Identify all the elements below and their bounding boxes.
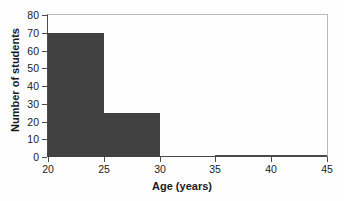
x-tick-label-wrap: 20 bbox=[28, 163, 68, 175]
x-tick-mark bbox=[160, 157, 161, 162]
x-tick-label-wrap: 30 bbox=[140, 163, 180, 175]
bar bbox=[48, 33, 104, 157]
y-tick-label-wrap: 60 bbox=[0, 46, 39, 56]
x-tick-label-wrap: 40 bbox=[251, 163, 291, 175]
y-tick-mark bbox=[42, 157, 47, 158]
bar bbox=[104, 113, 160, 157]
x-tick-mark bbox=[48, 157, 49, 162]
x-tick-label: 45 bbox=[307, 163, 344, 175]
y-tick-label: 40 bbox=[3, 81, 39, 91]
y-tick-label-wrap: 10 bbox=[0, 134, 39, 144]
y-tick-label-wrap: 30 bbox=[0, 99, 39, 109]
y-tick-label-wrap: 0 bbox=[0, 152, 39, 162]
y-tick-label-wrap: 20 bbox=[0, 117, 39, 127]
x-tick-label: 30 bbox=[140, 163, 180, 175]
x-tick-label: 40 bbox=[251, 163, 291, 175]
y-tick-label: 30 bbox=[3, 99, 39, 109]
y-tick-label-wrap: 50 bbox=[0, 63, 39, 73]
x-tick-label-wrap: 35 bbox=[195, 163, 235, 175]
x-tick-mark bbox=[271, 157, 272, 162]
x-axis-title: Age (years) bbox=[47, 180, 317, 192]
x-tick-label: 35 bbox=[195, 163, 235, 175]
y-tick-label: 80 bbox=[3, 10, 39, 20]
y-tick-label: 20 bbox=[3, 117, 39, 127]
x-tick-label-wrap: 25 bbox=[84, 163, 124, 175]
histogram-figure: Number of students 01020304050607080 202… bbox=[0, 0, 344, 201]
plot-area bbox=[48, 15, 327, 157]
y-tick-label: 10 bbox=[3, 134, 39, 144]
y-tick-label-wrap: 70 bbox=[0, 28, 39, 38]
y-tick-label: 60 bbox=[3, 46, 39, 56]
x-tick-label-wrap: 45 bbox=[307, 163, 344, 175]
y-tick-label-wrap: 40 bbox=[0, 81, 39, 91]
y-tick-label: 0 bbox=[3, 152, 39, 162]
x-tick-mark bbox=[327, 157, 328, 162]
x-tick-label: 25 bbox=[84, 163, 124, 175]
y-tick-label-wrap: 80 bbox=[0, 10, 39, 20]
x-tick-mark bbox=[215, 157, 216, 162]
x-tick-mark bbox=[104, 157, 105, 162]
y-tick-label: 50 bbox=[3, 63, 39, 73]
y-tick-label: 70 bbox=[3, 28, 39, 38]
x-tick-label: 20 bbox=[28, 163, 68, 175]
